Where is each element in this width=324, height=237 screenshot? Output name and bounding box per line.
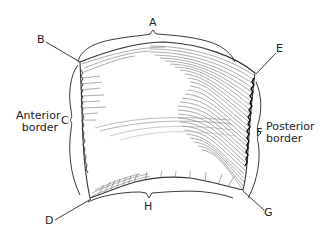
- leader-d: [55, 199, 91, 220]
- vertebral-body-diagram: A B E C F D H G Anterior border Posterio…: [0, 0, 324, 237]
- label-e: E: [276, 43, 283, 54]
- anterior-border-label: Anterior border: [16, 110, 58, 134]
- label-b: B: [37, 34, 45, 45]
- brace-h: [88, 191, 233, 202]
- leader-e: [256, 53, 276, 74]
- leader-b: [46, 42, 80, 62]
- label-d: D: [45, 215, 53, 226]
- label-c: C: [61, 115, 69, 126]
- leader-g: [243, 191, 264, 210]
- posterior-line2: border: [266, 133, 315, 145]
- anterior-line2: border: [16, 122, 58, 134]
- label-a: A: [149, 17, 157, 28]
- label-h: H: [144, 201, 152, 212]
- label-g: G: [264, 207, 273, 218]
- brace-c: [70, 65, 80, 195]
- label-f: F: [256, 127, 262, 138]
- posterior-border-label: Posterior border: [266, 121, 315, 145]
